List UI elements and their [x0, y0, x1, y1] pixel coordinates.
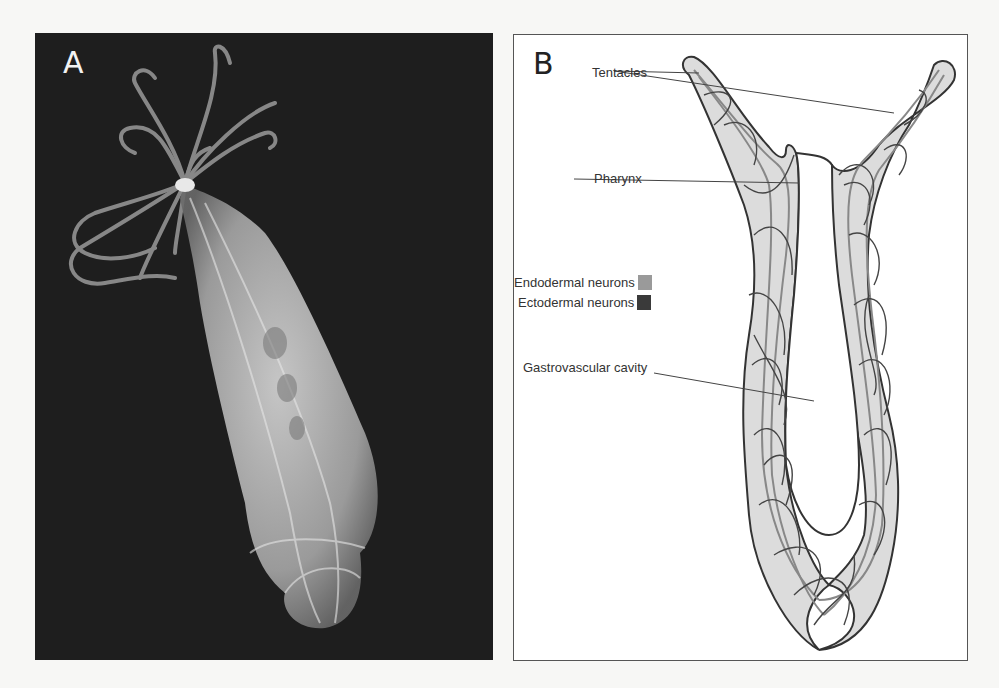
label-gastrovascular-cavity: Gastrovascular cavity — [523, 360, 647, 375]
ectodermal-swatch — [637, 295, 651, 310]
label-tentacles: Tentacles — [592, 65, 647, 80]
legend-ectodermal: Ectodermal neurons — [518, 295, 651, 310]
panel-b-diagram: B Tentacles Pharynx Gastrovascular cavit… — [513, 34, 968, 661]
neuron-network-diagram — [514, 35, 968, 661]
label-pharynx: Pharynx — [594, 171, 642, 186]
panel-a-label: A — [63, 45, 84, 80]
panel-b-label: B — [533, 46, 554, 81]
polyp-photo — [35, 33, 493, 660]
endodermal-swatch — [638, 275, 652, 290]
legend-ectodermal-label: Ectodermal neurons — [518, 295, 634, 310]
legend-endodermal-label: Endodermal neurons — [514, 275, 635, 290]
panel-a-photo: A — [35, 33, 493, 660]
legend-endodermal: Endodermal neurons — [514, 275, 652, 290]
